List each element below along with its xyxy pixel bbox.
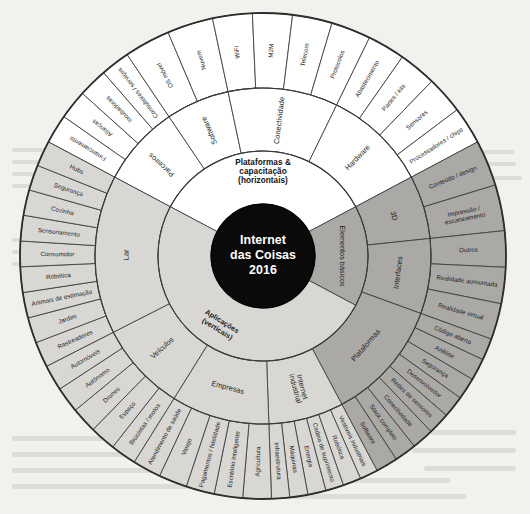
outer-label-consumidor: Consumidor [41,250,75,257]
hub-group: Internetdas Coisas2016 [211,204,315,308]
outer-label-outros: Outros [459,245,478,253]
outer-label-agricultura: Agricultura [253,446,261,477]
sunburst-svg: AutomaçãoBrinquedosIdososEsportesFamília… [0,0,530,514]
inner-label-horizontais: Plataformas &capacitação(horizontais) [235,158,291,185]
inner-label-elementos-basicos: Elementos básicos [338,225,347,287]
outer-label-m2m: M2M [266,44,274,58]
iot-wheel-diagram: AutomaçãoBrinquedosIdososEsportesFamília… [0,0,530,514]
middle-label-lar: Lar [121,249,130,260]
